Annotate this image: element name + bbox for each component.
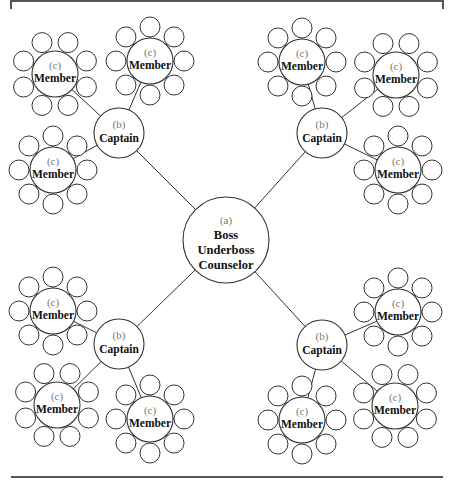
associate-circle: [417, 78, 437, 98]
associate-circle: [416, 409, 436, 429]
associate-circle: [316, 28, 336, 48]
captain-label: Captain: [99, 132, 139, 145]
associate-circle: [354, 383, 374, 403]
associate-circle: [416, 383, 436, 403]
associate-circle: [140, 375, 160, 395]
associate-circle: [373, 96, 393, 116]
member-tag: (c): [144, 46, 157, 59]
associate-circle: [43, 335, 63, 355]
boss-label-line: Boss: [214, 228, 238, 242]
associate-circle: [292, 376, 312, 396]
top-border: [11, 1, 443, 9]
member-node: (c)Member: [14, 33, 97, 116]
member-tag: (c): [392, 155, 405, 168]
associate-circle: [372, 365, 392, 385]
member-label: Member: [129, 417, 171, 429]
associate-circle: [58, 33, 78, 53]
member-node: (c)Member: [106, 17, 194, 105]
member-tag: (c): [144, 404, 157, 417]
associate-circle: [326, 410, 346, 430]
associate-circle: [43, 267, 63, 287]
associate-circle: [164, 75, 184, 95]
associate-circle: [116, 75, 136, 95]
associate-circle: [372, 427, 392, 447]
captain-label: Captain: [302, 132, 342, 145]
associate-circle: [417, 52, 437, 72]
associate-circle: [140, 17, 160, 37]
associate-circle: [19, 184, 39, 204]
associate-circle: [388, 194, 408, 214]
associate-circle: [354, 302, 374, 322]
boss-label-line: Counselor: [199, 258, 254, 272]
associate-circle: [412, 326, 432, 346]
captain-group-top-right: (c)Member(c)Member(c)Member(b)Captain: [258, 18, 442, 214]
captain-node: (b)Captain: [94, 108, 144, 158]
captain-node: (b)Captain: [297, 108, 347, 158]
member-label: Member: [377, 310, 419, 322]
associate-circle: [316, 386, 336, 406]
associate-circle: [373, 34, 393, 54]
associate-circle: [164, 27, 184, 47]
associate-circle: [174, 51, 194, 71]
associate-circle: [16, 408, 36, 428]
associate-circle: [364, 184, 384, 204]
associate-circle: [422, 302, 442, 322]
associate-circle: [67, 136, 87, 156]
associate-circle: [164, 433, 184, 453]
associate-circle: [326, 52, 346, 72]
associate-circle: [354, 160, 374, 180]
associate-circle: [77, 160, 97, 180]
associate-circle: [32, 33, 52, 53]
associate-circle: [355, 78, 375, 98]
associate-circle: [292, 18, 312, 38]
member-tag: (c): [47, 155, 60, 168]
associate-circle: [268, 28, 288, 48]
boss-captain-link: [255, 152, 306, 208]
associate-circle: [364, 278, 384, 298]
member-tag: (c): [51, 390, 64, 403]
associate-circle: [388, 336, 408, 356]
associate-circle: [364, 136, 384, 156]
member-tag: (c): [47, 296, 60, 309]
associate-circle: [67, 184, 87, 204]
associate-circle: [268, 76, 288, 96]
member-label: Member: [377, 168, 419, 180]
member-label: Member: [281, 60, 323, 72]
boss-node: (a)BossUnderbossCounselor: [183, 197, 269, 283]
associate-circle: [116, 433, 136, 453]
captain-node: (b)Captain: [297, 320, 347, 370]
associate-circle: [34, 364, 54, 384]
associate-circle: [14, 51, 34, 71]
boss-captain-link: [255, 272, 305, 327]
associate-circle: [174, 409, 194, 429]
member-node: (c)Member: [355, 34, 438, 117]
associate-circle: [412, 184, 432, 204]
associate-circle: [60, 426, 80, 446]
associate-circle: [19, 277, 39, 297]
member-label: Member: [32, 168, 74, 180]
member-node: (c)Member: [354, 126, 442, 214]
associate-circle: [116, 27, 136, 47]
captain-tag: (b): [316, 118, 329, 131]
member-label: Member: [375, 73, 417, 85]
member-label: Member: [281, 418, 323, 430]
member-tag: (c): [392, 297, 405, 310]
associate-circle: [412, 136, 432, 156]
associate-circle: [43, 194, 63, 214]
associate-circle: [364, 326, 384, 346]
associate-circle: [268, 386, 288, 406]
associate-circle: [116, 385, 136, 405]
associate-circle: [399, 34, 419, 54]
nodes: (a)BossUnderbossCounselor(c)Member(c)Mem…: [9, 17, 442, 464]
member-node: (c)Member: [354, 268, 442, 356]
associate-circle: [292, 86, 312, 106]
boss-tag: (a): [220, 214, 233, 227]
associate-circle: [106, 51, 126, 71]
associate-circle: [164, 385, 184, 405]
associate-circle: [19, 325, 39, 345]
associate-circle: [268, 434, 288, 454]
captain-group-top-left: (c)Member(c)Member(c)Member(b)Captain: [9, 17, 194, 214]
associate-circle: [32, 95, 52, 115]
boss-label-line: Underboss: [198, 243, 255, 257]
associate-circle: [258, 410, 278, 430]
